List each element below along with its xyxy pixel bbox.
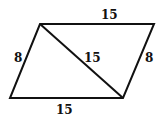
left-side-label: 8: [14, 51, 22, 65]
right-side-label: 8: [145, 51, 153, 65]
diagonal-line: [40, 24, 123, 98]
bottom-side-label: 15: [56, 103, 73, 117]
parallelogram-diagram: 15 15 8 8 15: [0, 0, 166, 121]
top-side-label: 15: [101, 8, 118, 22]
diagonal-label: 15: [84, 51, 101, 65]
